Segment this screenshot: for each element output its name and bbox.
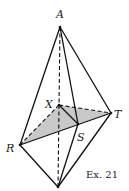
vertex-X-dot: [58, 104, 61, 107]
figure-caption: Ex. 21: [86, 169, 118, 180]
vertex-bottom-dot: [57, 186, 60, 189]
label-R: R: [5, 142, 14, 155]
label-X: X: [44, 98, 54, 111]
vertex-S-dot: [77, 123, 80, 126]
vertex-R-dot: [19, 144, 22, 147]
edge-R-bottom: [20, 145, 58, 187]
label-T: T: [114, 108, 123, 121]
vertex-A-dot: [59, 26, 62, 29]
label-S: S: [77, 131, 85, 144]
vertex-T-dot: [110, 112, 113, 115]
label-A: A: [55, 8, 64, 21]
pyramid-diagram: A X T S R Ex. 21: [0, 0, 129, 191]
edge-S-bottom: [58, 124, 78, 187]
